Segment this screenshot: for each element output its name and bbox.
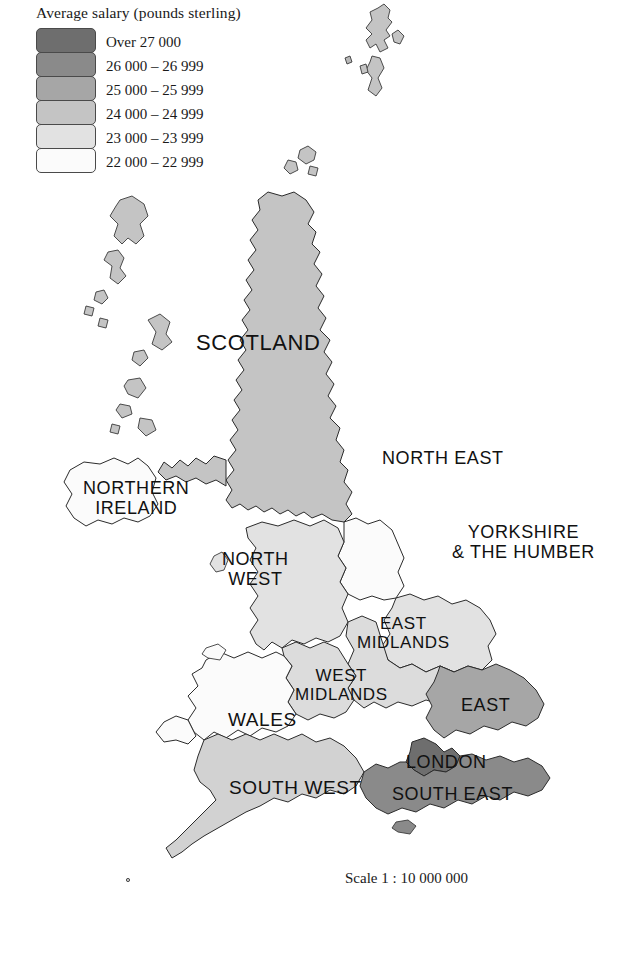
legend-swatch-25000-25999[interactable] xyxy=(36,76,96,101)
legend-title: Average salary (pounds sterling) xyxy=(36,4,316,22)
region-scotland[interactable] xyxy=(226,192,352,522)
legend-label-over-27000: Over 27 000 xyxy=(106,30,204,54)
region-inner-hebrides xyxy=(110,314,172,436)
region-north-west[interactable] xyxy=(246,520,348,650)
region-north-east[interactable] xyxy=(338,518,404,600)
region-south-west[interactable] xyxy=(166,734,364,858)
legend-label-23000-23999: 23 000 – 23 999 xyxy=(106,126,204,150)
legend-swatch-over-27000[interactable] xyxy=(36,28,96,53)
region-isle-of-wight xyxy=(392,820,416,834)
legend-label-22000-22999: 22 000 – 22 999 xyxy=(106,150,204,174)
legend-label-column: Over 27 000 26 000 – 26 999 25 000 – 25 … xyxy=(106,28,204,174)
region-isle-of-man xyxy=(210,552,228,572)
legend-label-24000-24999: 24 000 – 24 999 xyxy=(106,102,204,126)
region-wales[interactable] xyxy=(188,652,296,740)
legend-swatch-24000-24999[interactable] xyxy=(36,100,96,125)
region-outer-hebrides xyxy=(84,196,148,328)
region-scotland-west-coast xyxy=(158,456,226,486)
legend-swatch-26000-26999[interactable] xyxy=(36,52,96,77)
region-yorkshire-and-the-humber[interactable] xyxy=(382,594,496,672)
legend: Average salary (pounds sterling) Over 27… xyxy=(36,4,316,174)
legend-swatch-column xyxy=(36,28,96,172)
legend-label-25000-25999: 25 000 – 25 999 xyxy=(106,78,204,102)
region-shetland-islands xyxy=(345,4,404,96)
region-west-midlands[interactable] xyxy=(282,642,356,720)
legend-label-26000-26999: 26 000 – 26 999 xyxy=(106,54,204,78)
region-scilly-isles xyxy=(126,878,129,881)
map-scale-text: Scale 1 : 10 000 000 xyxy=(345,870,468,887)
map-page: SCOTLAND NORTHERN IRELAND NORTH EAST NOR… xyxy=(0,0,624,970)
legend-swatch-22000-22999[interactable] xyxy=(36,148,96,173)
legend-body: Over 27 000 26 000 – 26 999 25 000 – 25 … xyxy=(36,28,316,174)
region-east[interactable] xyxy=(426,664,544,738)
legend-swatch-23000-23999[interactable] xyxy=(36,124,96,149)
region-northern-ireland[interactable] xyxy=(64,458,158,526)
